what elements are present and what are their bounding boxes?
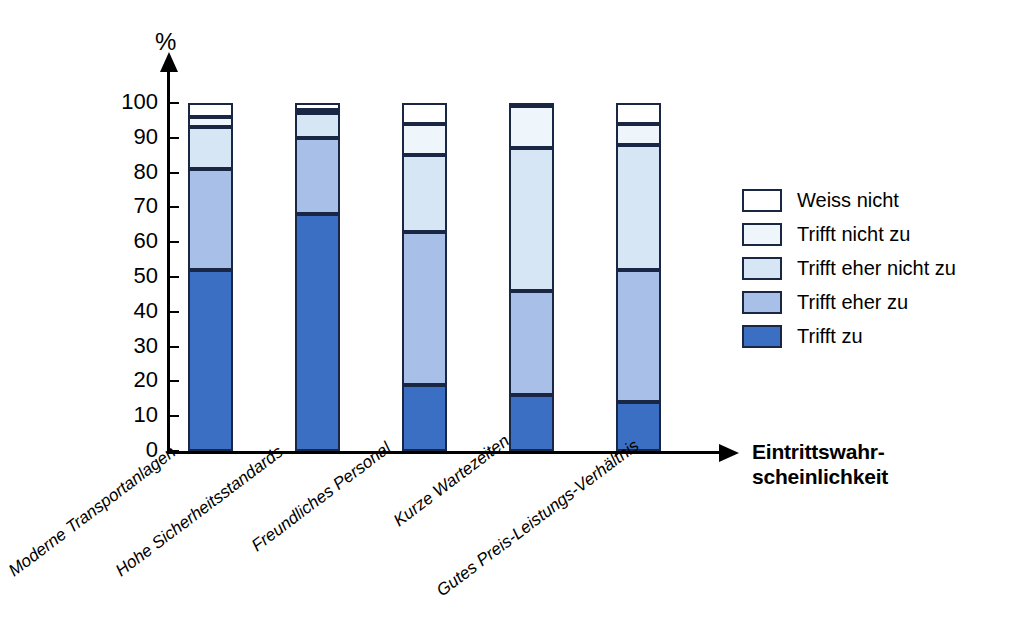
bar-segment	[188, 169, 233, 270]
bar-segment	[402, 385, 447, 451]
legend-item-label: Trifft eher nicht zu	[797, 257, 956, 280]
bar-stack	[402, 103, 447, 451]
bar-segment	[295, 214, 340, 451]
bar-segment	[402, 155, 447, 232]
bar-segment	[509, 291, 554, 395]
bar-segment	[509, 103, 554, 107]
bar-segment	[188, 103, 233, 117]
bar-stack	[616, 103, 661, 451]
bar-segment	[616, 124, 661, 145]
legend-item-label: Trifft eher zu	[797, 291, 908, 314]
bar-segment	[509, 395, 554, 451]
bar-segment	[509, 148, 554, 291]
legend-color-swatch	[742, 291, 782, 314]
bar-segment	[402, 232, 447, 385]
legend-item-label: Trifft zu	[797, 325, 863, 348]
chart-legend: Weiss nichtTrifft nicht zuTrifft eher ni…	[742, 183, 956, 353]
legend-color-swatch	[742, 223, 782, 246]
bar-segment	[295, 138, 340, 215]
legend-item: Trifft eher zu	[742, 285, 956, 319]
bar-segment	[188, 127, 233, 169]
bar-segment	[295, 103, 340, 110]
legend-color-swatch	[742, 189, 782, 212]
legend-color-swatch	[742, 257, 782, 280]
stacked-bar-chart: % Eintrittswahr- scheinlichkeit 10090807…	[0, 0, 1017, 636]
legend-color-swatch	[742, 325, 782, 348]
bar-segment	[188, 270, 233, 451]
legend-item: Trifft zu	[742, 319, 956, 353]
legend-item: Trifft nicht zu	[742, 217, 956, 251]
bar-segment	[509, 106, 554, 148]
bar-segment	[616, 103, 661, 124]
bar-segment	[188, 117, 233, 127]
bar-segment	[402, 103, 447, 124]
legend-item: Weiss nicht	[742, 183, 956, 217]
bar-stack	[509, 103, 554, 451]
legend-item-label: Weiss nicht	[797, 189, 899, 212]
legend-item-label: Trifft nicht zu	[797, 223, 910, 246]
bar-stack	[295, 103, 340, 451]
bar-segment	[295, 113, 340, 137]
bar-stack	[188, 103, 233, 451]
legend-item: Trifft eher nicht zu	[742, 251, 956, 285]
bar-segment	[402, 124, 447, 155]
bar-segment	[616, 145, 661, 270]
bar-segment	[616, 270, 661, 402]
bar-segment	[295, 110, 340, 114]
